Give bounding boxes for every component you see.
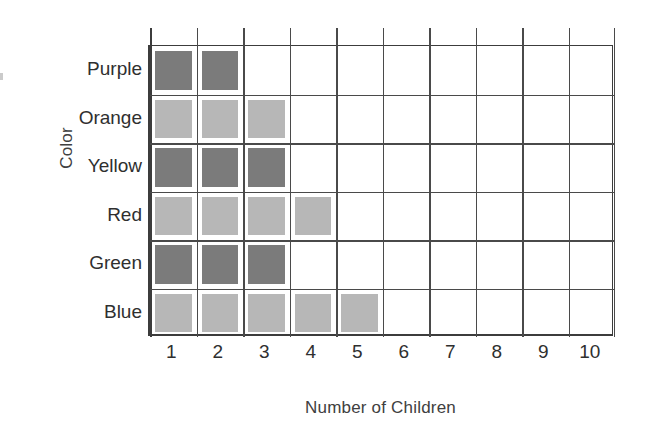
gridline-vertical <box>336 28 338 337</box>
gridline-vertical <box>150 28 152 337</box>
plot-area <box>148 45 613 336</box>
gridline-vertical <box>476 28 478 337</box>
gridline-vertical <box>569 28 571 337</box>
gridline-vertical <box>197 28 199 337</box>
data-square-red-4 <box>295 197 332 236</box>
x-tick-label-1: 1 <box>148 341 195 363</box>
x-tick-label-7: 7 <box>427 341 474 363</box>
data-square-orange-1 <box>155 100 192 139</box>
gridline-vertical <box>522 28 524 337</box>
data-square-blue-4 <box>295 294 332 333</box>
data-square-orange-2 <box>202 100 239 139</box>
y-tick-label-red: Red <box>38 191 142 240</box>
gridline-horizontal <box>150 95 615 97</box>
x-tick-label-5: 5 <box>334 341 381 363</box>
x-tick-label-3: 3 <box>241 341 288 363</box>
data-square-yellow-3 <box>248 148 285 187</box>
data-square-yellow-1 <box>155 148 192 187</box>
y-tick-label-blue: Blue <box>38 288 142 337</box>
gridline-vertical <box>429 28 431 337</box>
gridline-vertical <box>614 28 616 337</box>
data-square-purple-1 <box>155 51 192 90</box>
y-tick-label-purple: Purple <box>38 45 142 94</box>
data-square-yellow-2 <box>202 148 239 187</box>
data-square-blue-5 <box>341 294 378 333</box>
data-square-blue-3 <box>248 294 285 333</box>
gridline-vertical <box>243 28 245 337</box>
data-square-blue-1 <box>155 294 192 333</box>
y-axis-tick-labels: PurpleOrangeYellowRedGreenBlue <box>38 45 142 336</box>
data-square-green-1 <box>155 245 192 284</box>
data-square-purple-2 <box>202 51 239 90</box>
x-tick-label-2: 2 <box>195 341 242 363</box>
data-square-red-1 <box>155 197 192 236</box>
scan-artifact <box>0 73 3 80</box>
grid-bar-chart: Color PurpleOrangeYellowRedGreenBlue 123… <box>0 0 648 422</box>
y-tick-label-green: Green <box>38 239 142 288</box>
gridline-horizontal <box>150 192 615 194</box>
data-square-green-3 <box>248 245 285 284</box>
x-tick-label-4: 4 <box>288 341 335 363</box>
y-tick-label-orange: Orange <box>38 94 142 143</box>
x-tick-label-6: 6 <box>381 341 428 363</box>
x-axis-tick-labels: 12345678910 <box>148 341 613 371</box>
data-square-orange-3 <box>248 100 285 139</box>
x-tick-label-8: 8 <box>474 341 521 363</box>
data-square-red-3 <box>248 197 285 236</box>
gridline-horizontal <box>150 143 615 145</box>
gridline-horizontal <box>150 289 615 291</box>
x-tick-label-9: 9 <box>520 341 567 363</box>
x-tick-label-10: 10 <box>567 341 614 363</box>
gridline-vertical <box>290 28 292 337</box>
gridline-horizontal <box>150 240 615 242</box>
data-square-blue-2 <box>202 294 239 333</box>
x-axis-title: Number of Children <box>148 398 613 418</box>
y-tick-label-yellow: Yellow <box>38 142 142 191</box>
gridline-vertical <box>383 28 385 337</box>
data-square-red-2 <box>202 197 239 236</box>
data-square-green-2 <box>202 245 239 284</box>
